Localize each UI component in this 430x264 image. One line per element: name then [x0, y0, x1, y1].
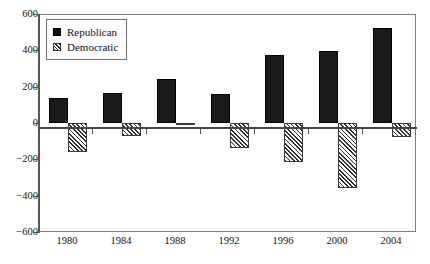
bar-republican-1992 [211, 94, 230, 123]
x-tick-label-2000: 2000 [327, 236, 348, 247]
zero-tick-5 [308, 129, 309, 134]
y-tick-mark--400 [33, 196, 39, 197]
bar-republican-1988 [157, 79, 176, 123]
zero-baseline [38, 127, 417, 129]
y-tick-mark-0 [33, 123, 39, 124]
zero-tick-6 [362, 129, 363, 134]
legend-item-democratic: Democratic [53, 40, 118, 54]
x-axis-tick-labels: 1980198419881992199620002004 [0, 236, 430, 256]
bar-republican-1984 [103, 93, 122, 123]
bar-democratic-2004 [392, 123, 411, 137]
zero-tick-4 [254, 129, 255, 134]
y-tick-mark-200 [33, 87, 39, 88]
legend-label-democratic: Democratic [67, 42, 118, 53]
x-tick-label-1988: 1988 [165, 236, 186, 247]
bar-republican-2004 [373, 28, 392, 123]
legend-swatch-democratic-icon [53, 43, 61, 51]
y-axis-tick-labels: 6004002000−200−400−600 [0, 0, 38, 264]
bar-republican-1996 [265, 55, 284, 123]
legend-swatch-republican-icon [53, 28, 61, 36]
x-tick-label-1996: 1996 [273, 236, 294, 247]
zero-tick-1 [92, 129, 93, 134]
bar-chart: 6004002000−200−400−600 19801984198819921… [0, 0, 430, 264]
y-tick-mark--600 [33, 232, 39, 233]
legend-item-republican: Republican [53, 25, 118, 39]
zero-tick-2 [146, 129, 147, 134]
bar-republican-2000 [319, 51, 338, 123]
chart-legend: Republican Democratic [46, 19, 127, 60]
x-tick-label-1980: 1980 [57, 236, 78, 247]
x-tick-label-1992: 1992 [219, 236, 240, 247]
bar-democratic-1984 [122, 123, 141, 136]
bar-democratic-1988 [176, 123, 195, 125]
y-tick-mark-400 [33, 50, 39, 51]
bar-republican-1980 [49, 98, 68, 123]
bar-democratic-2000 [338, 123, 357, 188]
zero-tick-3 [200, 129, 201, 134]
y-tick-mark-600 [33, 14, 39, 15]
legend-label-republican: Republican [67, 27, 117, 38]
x-tick-label-1984: 1984 [111, 236, 132, 247]
x-tick-label-2004: 2004 [381, 236, 402, 247]
y-tick-mark--200 [33, 159, 39, 160]
